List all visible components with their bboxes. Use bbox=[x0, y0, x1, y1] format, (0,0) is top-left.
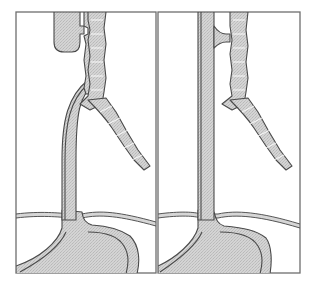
diagram-canvas bbox=[0, 0, 313, 287]
upper-esophageal-pouch bbox=[54, 12, 84, 52]
panel-left bbox=[16, 12, 156, 274]
esophagus bbox=[198, 12, 214, 220]
panel-right bbox=[158, 12, 300, 274]
